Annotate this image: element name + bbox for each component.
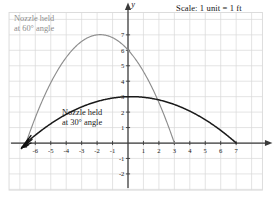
nozzle-marker (21, 136, 32, 149)
svg-text:x: x (273, 140, 274, 149)
svg-text:5: 5 (204, 147, 208, 154)
tick-labels: -6-5-4-3-2-112345671234567-1-2 (33, 31, 239, 177)
svg-text:-6: -6 (33, 147, 39, 154)
svg-text:3: 3 (173, 147, 177, 154)
svg-text:6: 6 (219, 147, 223, 154)
annotation-30-line2: at 30° angle (62, 118, 102, 128)
grid-lines (9, 12, 262, 190)
annotation-60-line1: Nozzle held (14, 14, 54, 24)
svg-text:-2: -2 (119, 170, 125, 177)
svg-text:1: 1 (121, 124, 124, 131)
svg-text:-5: -5 (48, 147, 54, 154)
svg-text:-1: -1 (119, 155, 125, 162)
svg-text:4: 4 (188, 147, 192, 154)
axis-name-labels: xy (130, 0, 274, 149)
svg-text:1: 1 (142, 147, 145, 154)
svg-text:-2: -2 (94, 147, 100, 154)
svg-text:y: y (130, 0, 135, 9)
svg-text:2: 2 (121, 109, 124, 116)
annotation-30-line1: Nozzle held (62, 108, 102, 118)
annotation-60-degree: Nozzle held at 60° angle (14, 14, 54, 34)
scale-note: Scale: 1 unit = 1 ft (176, 3, 242, 13)
svg-text:-3: -3 (79, 147, 85, 154)
svg-text:2: 2 (157, 147, 160, 154)
svg-text:7: 7 (235, 147, 239, 154)
annotation-60-line2: at 60° angle (14, 24, 54, 34)
chart-figure: -6-5-4-3-2-112345671234567-1-2 xy Scale:… (0, 0, 274, 201)
annotation-30-degree: Nozzle held at 30° angle (62, 108, 102, 128)
parabola-curves (26, 35, 236, 143)
svg-text:-1: -1 (110, 147, 116, 154)
svg-text:-4: -4 (63, 147, 69, 154)
